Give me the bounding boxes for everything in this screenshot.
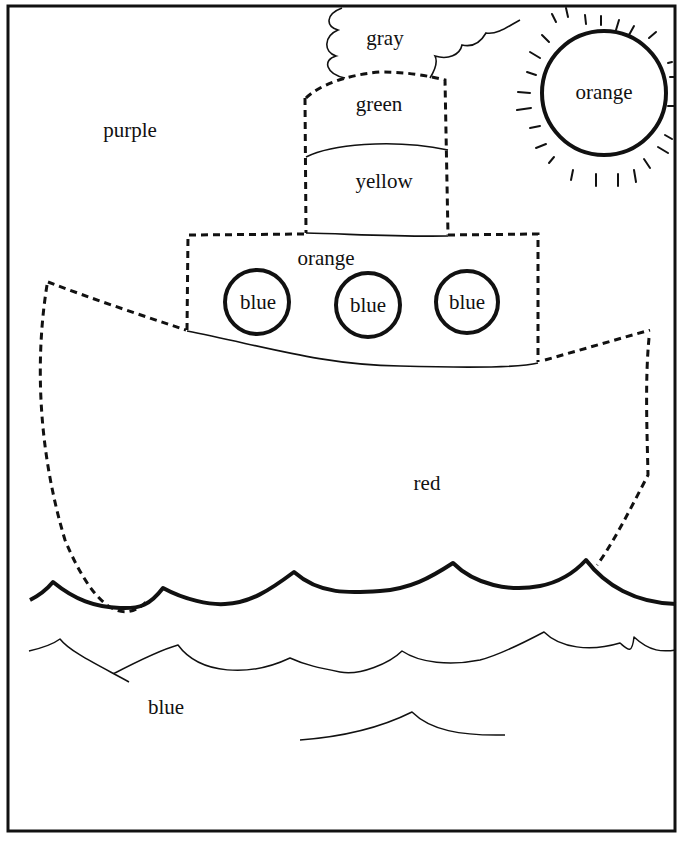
hull-left-deck [48, 282, 186, 330]
hull-right-side [597, 338, 649, 565]
smokestack-band-line [306, 144, 448, 157]
wave-line-2 [29, 632, 676, 682]
hull-left-side [40, 285, 148, 612]
label-cabin: orange [297, 248, 354, 269]
wave-line-3 [300, 712, 505, 740]
label-porthole-1: blue [240, 292, 276, 313]
smoke-cloud-outline [327, 8, 520, 78]
hull-right-deck [545, 330, 650, 360]
wave-line-1 [30, 560, 676, 608]
label-smokestack-top: green [356, 94, 403, 115]
label-sky: purple [103, 120, 157, 141]
label-porthole-3: blue [449, 292, 485, 313]
label-porthole-2: blue [350, 295, 386, 316]
smokestack-left-edge [305, 98, 306, 233]
label-smokestack-bottom: yellow [355, 171, 412, 192]
label-smoke-cloud: gray [366, 28, 403, 49]
label-sea: blue [148, 697, 184, 718]
label-sun: orange [575, 82, 632, 103]
label-hull: red [414, 473, 441, 494]
smokestack-base-line [306, 233, 448, 236]
